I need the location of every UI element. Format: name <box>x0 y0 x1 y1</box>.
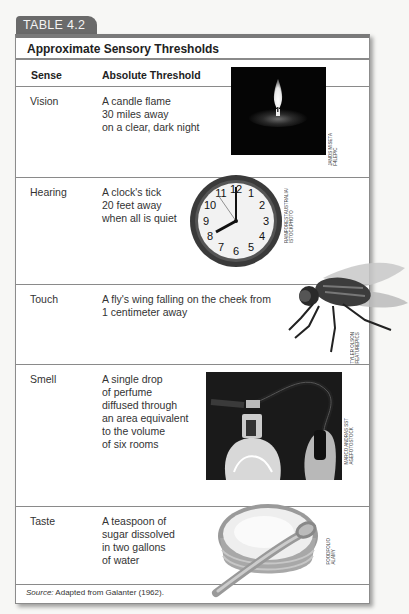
svg-text:3: 3 <box>263 215 269 227</box>
svg-text:8: 8 <box>207 230 213 242</box>
svg-text:9: 9 <box>203 215 209 227</box>
sugar-bowl-spoon-photo <box>206 498 336 598</box>
threshold-text: A single drop of perfume diffused throug… <box>102 373 188 451</box>
source-note: Source: Adapted from Galanter (1962). <box>26 588 164 597</box>
source-text: Adapted from Galanter (1962). <box>54 588 164 597</box>
sense-label: Hearing <box>30 186 67 198</box>
sense-label: Smell <box>30 373 56 385</box>
housefly-photo <box>283 258 409 358</box>
sense-label: Touch <box>30 293 58 305</box>
photo-credit-hearing: RAINFORESTAUSTRALIA/ ISTOCKPHOTO <box>284 188 294 243</box>
threshold-text: A clock's tick 20 feet away when all is … <box>102 186 177 225</box>
threshold-text: A fly's wing falling on the cheek from 1… <box>102 293 271 319</box>
svg-text:4: 4 <box>259 230 265 242</box>
photo-credit-vision: JANOS MISETA F4LEPIC <box>328 133 338 166</box>
photo-credit-taste: FOODFOLIO ALAMY <box>326 538 336 565</box>
svg-text:11: 11 <box>215 187 226 199</box>
threshold-text: A teaspoon of sugar dissolved in two gal… <box>102 515 175 567</box>
svg-text:10: 10 <box>204 199 216 211</box>
table-number-tab: TABLE 4.2 <box>16 16 97 34</box>
perfume-atomizer-photo <box>206 372 342 480</box>
column-header-sense: Sense <box>31 69 62 81</box>
photo-credit-smell: MARCO ANDRAS SST AGEFOTOSTOCK <box>344 418 354 465</box>
svg-text:7: 7 <box>218 241 224 253</box>
column-header-threshold: Absolute Threshold <box>102 69 201 81</box>
source-label: Source: <box>26 588 54 597</box>
sense-label: Taste <box>30 515 55 527</box>
svg-text:5: 5 <box>248 241 254 253</box>
wall-clock-photo: 1212 345 678 91011 <box>188 173 284 269</box>
table-title: Approximate Sensory Thresholds <box>16 38 369 60</box>
svg-text:1: 1 <box>248 187 254 199</box>
svg-text:2: 2 <box>259 199 265 211</box>
sense-label: Vision <box>30 95 58 107</box>
svg-text:6: 6 <box>233 245 239 257</box>
candle-flame-photo <box>231 67 326 155</box>
threshold-text: A candle flame 30 miles away on a clear,… <box>102 95 199 134</box>
